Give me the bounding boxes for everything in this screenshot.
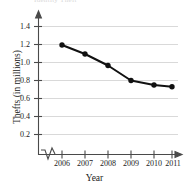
x-axis-break-zigzag-icon — [41, 148, 55, 159]
x-axis — [39, 152, 183, 158]
gridlines — [38, 27, 178, 135]
data-point-2008 — [105, 63, 110, 68]
data-point-2006 — [59, 42, 64, 47]
x-tick-label-2011: 2011 — [160, 159, 186, 168]
y-axis — [36, 11, 42, 155]
data-point-markers — [59, 42, 174, 89]
data-point-2007 — [82, 51, 87, 56]
chart-figure: Identity Theft — [0, 0, 189, 192]
y-axis-arrow-icon — [36, 11, 42, 18]
data-point-2009 — [128, 78, 133, 83]
data-point-2010 — [151, 82, 156, 87]
y-tick-label-1.4: 1.4 — [8, 22, 30, 31]
data-point-2011 — [169, 84, 174, 89]
x-axis-arrow-icon — [175, 152, 182, 158]
y-axis-title: Thefts (in millions) — [12, 39, 22, 135]
x-axis-title: Year — [0, 173, 189, 183]
